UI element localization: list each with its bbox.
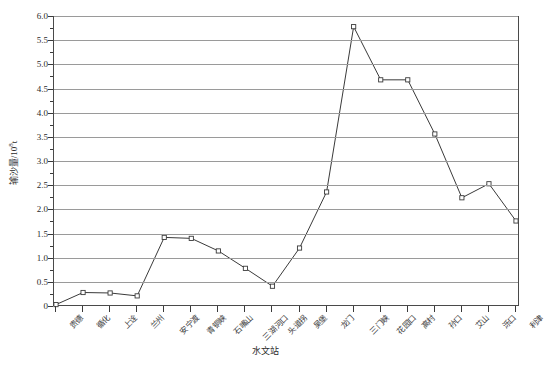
data-point-marker xyxy=(297,246,301,250)
x-axis-tick-label: 青铜峡 xyxy=(205,313,228,336)
data-point-marker xyxy=(243,266,247,270)
data-point-marker xyxy=(460,196,464,200)
y-axis-tick-marks xyxy=(0,16,53,306)
data-point-marker xyxy=(216,249,220,253)
x-axis-tick-label: 循化 xyxy=(95,313,113,331)
x-axis-title: 水文站 xyxy=(0,346,531,357)
gridline xyxy=(54,16,518,17)
data-point-marker xyxy=(514,219,518,223)
x-axis-tick xyxy=(353,306,354,312)
gridline xyxy=(54,161,518,162)
x-axis-tick xyxy=(190,306,191,312)
data-point-marker xyxy=(324,190,328,194)
x-axis-tick xyxy=(488,306,489,312)
x-axis-tick-label: 利津 xyxy=(528,313,545,331)
x-axis-tick-label: 花园口 xyxy=(395,313,418,336)
x-axis-tick xyxy=(136,306,137,312)
x-axis-tick xyxy=(55,306,56,312)
gridline xyxy=(54,185,518,186)
x-axis-tick-label: 吴堡 xyxy=(312,313,330,331)
data-point-marker xyxy=(81,290,85,294)
x-axis-tick-marks xyxy=(53,306,519,313)
gridline xyxy=(54,209,518,210)
x-axis-tick xyxy=(407,306,408,312)
gridline xyxy=(54,282,518,283)
x-axis-tick-label: 龙门 xyxy=(339,313,357,331)
x-axis-tick xyxy=(271,306,272,312)
x-axis-tick xyxy=(515,306,516,312)
series-polyline xyxy=(56,27,516,305)
data-point-marker xyxy=(379,78,383,82)
x-axis-tick-label: 高村 xyxy=(420,313,438,331)
x-axis-tick-label: 孙口 xyxy=(447,313,465,331)
data-point-marker xyxy=(162,235,166,239)
gridline xyxy=(54,40,518,41)
x-axis-tick-label: 三湖河口 xyxy=(261,313,290,342)
series-line xyxy=(54,17,520,307)
data-point-marker xyxy=(270,284,274,288)
x-axis-tick xyxy=(380,306,381,312)
x-axis-tick-label: 石嘴山 xyxy=(232,313,255,336)
gridline xyxy=(54,258,518,259)
x-axis-tick-label: 头道拐 xyxy=(286,313,309,336)
x-axis-tick xyxy=(163,306,164,312)
data-point-marker xyxy=(135,294,139,298)
data-point-marker xyxy=(406,78,410,82)
data-point-marker xyxy=(433,132,437,136)
x-axis-tick xyxy=(82,306,83,312)
x-axis-tick xyxy=(326,306,327,312)
x-axis-tick-label: 安宁渡 xyxy=(178,313,201,336)
data-point-marker xyxy=(108,291,112,295)
x-axis-tick xyxy=(434,306,435,312)
x-axis-tick-label: 贵德 xyxy=(68,313,86,331)
plot-area xyxy=(53,16,519,306)
x-axis-tick xyxy=(244,306,245,312)
x-axis-tick-label: 泺口 xyxy=(501,313,519,331)
x-axis-tick xyxy=(217,306,218,312)
x-axis-tick-label: 上诠 xyxy=(122,313,140,331)
gridline xyxy=(54,113,518,114)
data-point-marker xyxy=(189,236,193,240)
x-axis-tick xyxy=(461,306,462,312)
gridline xyxy=(54,64,518,65)
x-axis-tick-labels: 贵德循化上诠兰州安宁渡青铜峡石嘴山三湖河口头道拐吴堡龙门三门峡花园口高村孙口艾山… xyxy=(53,313,519,347)
data-point-marker xyxy=(352,25,356,29)
x-axis-tick-label: 艾山 xyxy=(474,313,492,331)
gridline xyxy=(54,89,518,90)
x-axis-tick xyxy=(109,306,110,312)
x-axis-tick xyxy=(299,306,300,312)
x-axis-tick-label: 兰州 xyxy=(149,313,167,331)
x-axis-tick-label: 三门峡 xyxy=(368,313,391,336)
gridline xyxy=(54,137,518,138)
gridline xyxy=(54,234,518,235)
